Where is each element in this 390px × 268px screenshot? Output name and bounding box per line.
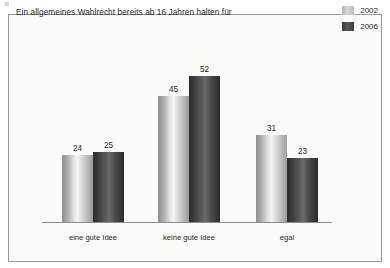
bar-group-0: 24 25: [62, 152, 124, 222]
bar-value-1-2002: 45: [158, 85, 189, 94]
x-tick-label-0: eine gute Idee: [69, 233, 117, 242]
bar-rect-1-2006: [189, 76, 220, 222]
bar-rect-1-2002: [158, 96, 189, 222]
x-axis-baseline: [42, 222, 332, 223]
bar-group-1: 45 52: [158, 76, 220, 222]
plot-area: 24 25 45 52 31 23 eine gute Idee keine g…: [0, 0, 390, 268]
bar-rect-0-2006: [93, 152, 124, 222]
bar-item-1-2006[interactable]: 52: [189, 76, 220, 222]
bar-item-2-2002[interactable]: 31: [256, 135, 287, 222]
x-tick-label-1: keine gute Idee: [163, 233, 215, 242]
x-tick-label-2: egal: [280, 233, 294, 242]
bar-value-1-2006: 52: [189, 65, 220, 74]
bar-value-2-2006: 23: [287, 147, 318, 156]
bar-item-1-2002[interactable]: 45: [158, 96, 189, 222]
bar-value-2-2002: 31: [256, 124, 287, 133]
bar-rect-0-2002: [62, 155, 93, 222]
bar-value-0-2006: 25: [93, 141, 124, 150]
bar-rect-2-2002: [256, 135, 287, 222]
bar-value-0-2002: 24: [62, 144, 93, 153]
bar-item-0-2006[interactable]: 25: [93, 152, 124, 222]
bar-group-2: 31 23: [256, 135, 318, 222]
bar-rect-2-2006: [287, 158, 318, 222]
bar-item-0-2002[interactable]: 24: [62, 155, 93, 222]
bar-item-2-2006[interactable]: 23: [287, 158, 318, 222]
